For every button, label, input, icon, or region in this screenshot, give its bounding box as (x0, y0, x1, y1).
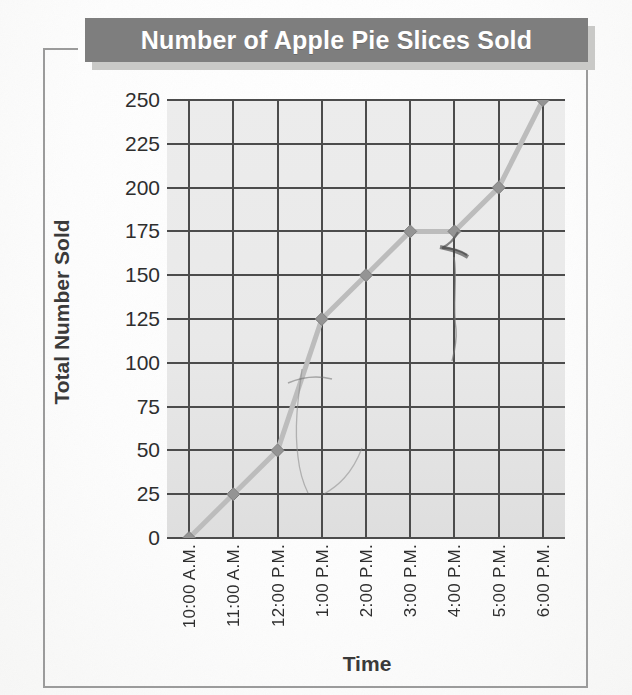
title-banner: Number of Apple Pie Slices Sold (85, 18, 588, 62)
x-tick-label: 5:00 P.M. (490, 544, 510, 617)
series-line (189, 100, 543, 538)
y-axis-title: Total Number Sold (50, 192, 74, 432)
y-tick-label: 100 (100, 351, 160, 375)
y-axis-tick-labels: 0255075100125150175200225250 (100, 100, 160, 538)
x-axis-tick-labels: 10:00 A.M.11:00 A.M.12:00 P.M.1:00 P.M.2… (167, 544, 565, 644)
y-tick-label: 25 (100, 482, 160, 506)
y-tick-label: 175 (100, 219, 160, 243)
x-axis-title: Time (167, 652, 567, 676)
x-tick-label: 3:00 P.M. (401, 544, 421, 617)
y-tick-label: 0 (100, 526, 160, 550)
x-tick-label: 2:00 P.M. (357, 544, 377, 617)
y-tick-label: 200 (100, 176, 160, 200)
x-tick-label: 11:00 A.M. (224, 544, 244, 627)
x-tick-label: 12:00 P.M. (269, 544, 289, 627)
y-tick-label: 250 (100, 88, 160, 112)
x-tick-label: 6:00 P.M. (534, 544, 554, 617)
x-tick-label: 10:00 A.M. (180, 544, 200, 628)
y-tick-label: 125 (100, 307, 160, 331)
y-tick-label: 50 (100, 438, 160, 462)
series-markers (183, 100, 550, 538)
y-tick-label: 225 (100, 132, 160, 156)
y-tick-label: 75 (100, 395, 160, 419)
x-tick-label: 1:00 P.M. (313, 544, 333, 617)
y-tick-label: 150 (100, 263, 160, 287)
x-tick-label: 4:00 P.M. (445, 544, 465, 617)
page-title: Number of Apple Pie Slices Sold (141, 26, 532, 55)
data-series-layer (167, 100, 565, 538)
